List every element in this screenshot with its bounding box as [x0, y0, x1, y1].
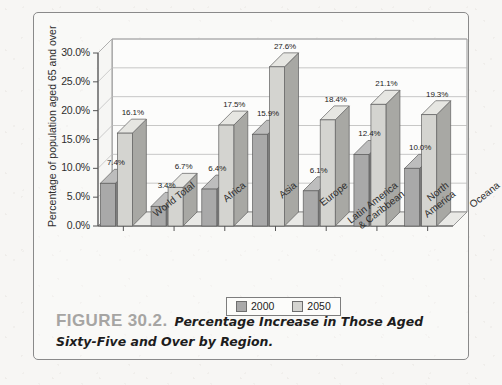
bar-value-label: 10.0%: [406, 143, 434, 152]
bar-value-label: 12.4%: [355, 129, 383, 138]
bar-value-label: 6.1%: [305, 166, 333, 175]
figure-caption: FIGURE 30.2.Percentage Increase in Those…: [56, 311, 452, 351]
legend-swatch-2050: [292, 301, 303, 312]
chart-svg: [36, 17, 468, 299]
bar-value-label: 6.7%: [170, 162, 198, 171]
figure-box: 0.0%5.0%10.0%15.0%20.0%25.0%30.0%7.4%16.…: [33, 12, 469, 360]
y-axis-title: Percentage of population aged 65 and ove…: [46, 27, 58, 227]
bar-value-label: 3.4%: [153, 181, 181, 190]
legend-swatch-2000: [236, 301, 247, 312]
chart-plot-area: 0.0%5.0%10.0%15.0%20.0%25.0%30.0%7.4%16.…: [36, 17, 468, 299]
bar-value-label: 17.5%: [220, 100, 248, 109]
bar-value-label: 19.3%: [423, 90, 451, 99]
bar-value-label: 7.4%: [102, 158, 130, 167]
bar-value-label: 15.9%: [254, 109, 282, 118]
bar-value-label: 18.4%: [322, 95, 350, 104]
bar-value-label: 27.6%: [271, 42, 299, 51]
bar-value-label: 16.1%: [119, 108, 147, 117]
bar-value-label: 21.1%: [372, 79, 400, 88]
bar-value-label: 6.4%: [203, 164, 231, 173]
figure-number: FIGURE 30.2.: [56, 311, 168, 330]
